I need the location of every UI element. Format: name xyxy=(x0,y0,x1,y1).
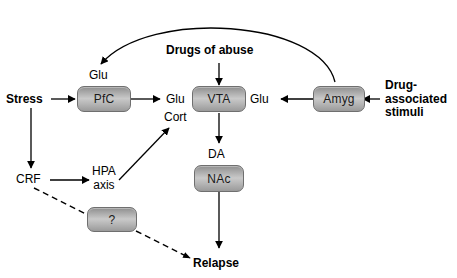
label-glu-pfc-to-vta: Glu xyxy=(166,92,185,106)
label-da: DA xyxy=(208,147,225,161)
label-hpa-axis: HPA axis xyxy=(92,165,116,192)
edge-unknown-to-relapse-dashed xyxy=(136,231,190,258)
label-glu-pfc-top: Glu xyxy=(89,68,108,82)
label-drug-associated-stimuli-line2: associated xyxy=(385,93,447,107)
node-pfc-label: PfC xyxy=(94,92,115,106)
label-drugs-of-abuse: Drugs of abuse xyxy=(166,43,253,57)
edge-crf-to-unknown-dashed xyxy=(34,188,88,215)
label-drug-associated-stimuli-line1: Drug- xyxy=(385,79,447,93)
node-nac-label: NAc xyxy=(207,172,230,186)
edge-hpa-to-cort xyxy=(119,128,169,180)
edge-layer: ? --> Relapse --> xyxy=(0,0,457,278)
label-stress: Stress xyxy=(6,92,43,106)
node-nac[interactable]: NAc xyxy=(194,165,244,192)
node-unknown[interactable]: ? xyxy=(87,207,137,232)
node-vta-label: VTA xyxy=(207,92,230,106)
node-amyg-label: Amyg xyxy=(323,92,354,106)
label-glu-amyg-to-vta: Glu xyxy=(250,92,269,106)
label-drug-associated-stimuli-line3: stimuli xyxy=(385,106,447,120)
label-crf: CRF xyxy=(16,172,41,186)
node-amyg[interactable]: Amyg xyxy=(313,86,365,112)
label-cort: Cort xyxy=(164,110,187,124)
node-unknown-label: ? xyxy=(109,213,116,227)
pathway-diagram: ? --> Relapse --> PfC VTA Amyg NAc ? Str… xyxy=(0,0,457,278)
node-pfc[interactable]: PfC xyxy=(77,86,131,112)
label-hpa-axis-line2: axis xyxy=(92,179,116,193)
node-vta[interactable]: VTA xyxy=(192,86,246,112)
label-relapse: Relapse xyxy=(193,256,239,270)
label-drug-associated-stimuli: Drug- associated stimuli xyxy=(385,79,447,120)
label-hpa-axis-line1: HPA xyxy=(92,165,116,179)
